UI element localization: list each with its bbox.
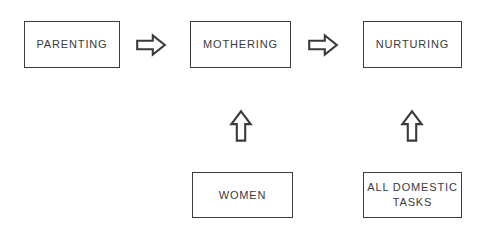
node-nurturing-label: NURTURING [376,37,449,52]
node-nurturing: NURTURING [363,21,462,68]
node-women-label: WOMEN [219,188,267,203]
node-parenting: PARENTING [24,21,120,68]
node-women: WOMEN [192,172,293,218]
up-arrow-icon [229,110,253,142]
node-parenting-label: PARENTING [36,37,107,52]
node-mothering: MOTHERING [190,21,291,68]
right-arrow-icon [136,33,166,57]
node-all-domestic-tasks: ALL DOMESTIC TASKS [363,172,462,218]
up-arrow-icon [400,110,424,142]
flowchart-diagram: PARENTING MOTHERING NURTURING WOMEN ALL … [0,0,486,235]
node-mothering-label: MOTHERING [203,37,278,52]
right-arrow-icon [308,33,338,57]
node-all-domestic-tasks-label: ALL DOMESTIC TASKS [367,180,457,210]
